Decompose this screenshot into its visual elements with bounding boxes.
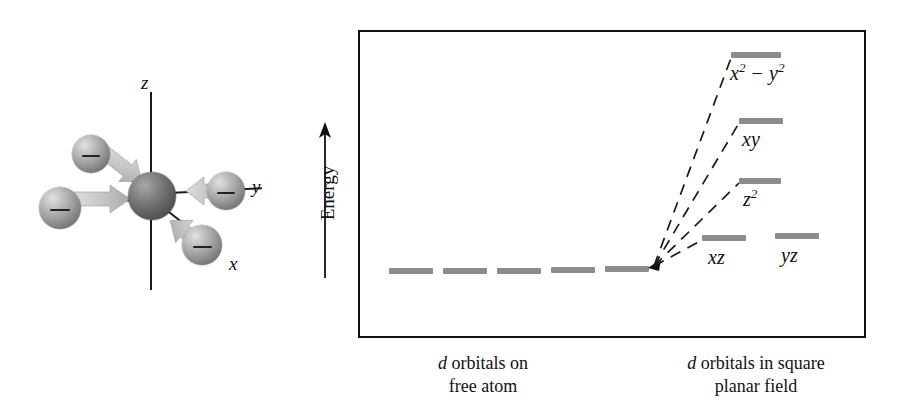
level-label-xy: xy bbox=[742, 128, 760, 151]
level-bar-xy bbox=[739, 118, 783, 124]
label-part-z: z bbox=[743, 188, 751, 210]
label-part-y: y bbox=[769, 62, 778, 84]
level-label-x2-y2: x2 − y2 bbox=[730, 62, 784, 85]
level-bar-yz bbox=[775, 233, 819, 239]
caption-free-atom-line1: orbitals on bbox=[452, 353, 529, 373]
label-part-minus: − bbox=[745, 62, 769, 84]
energy-level-diagram: Energy x2 − y2 bbox=[0, 0, 900, 417]
caption-free-atom-line2: free atom bbox=[449, 376, 517, 396]
caption-d-prefix-2: d bbox=[687, 353, 696, 373]
level-label-z2: z2 bbox=[743, 188, 757, 211]
caption-square-planar-line1: orbitals in square bbox=[701, 353, 825, 373]
label-sup-2b: 2 bbox=[778, 60, 785, 75]
correlation-line-xz-yz bbox=[654, 240, 702, 266]
level-bar-xz bbox=[702, 235, 746, 241]
level-bar-z2 bbox=[739, 178, 781, 184]
caption-free-atom: d orbitals on free atom bbox=[388, 352, 578, 398]
caption-square-planar: d orbitals in square planar field bbox=[646, 352, 866, 398]
level-bar-x2-y2 bbox=[731, 52, 781, 58]
caption-square-planar-line2: planar field bbox=[715, 376, 797, 396]
caption-d-prefix: d bbox=[438, 353, 447, 373]
label-sup-z2: 2 bbox=[751, 186, 758, 201]
level-label-yz: yz bbox=[781, 244, 798, 267]
figure-root: z y x Energy bbox=[0, 0, 900, 417]
label-part-x: x bbox=[730, 62, 739, 84]
level-label-xz: xz bbox=[708, 246, 725, 269]
